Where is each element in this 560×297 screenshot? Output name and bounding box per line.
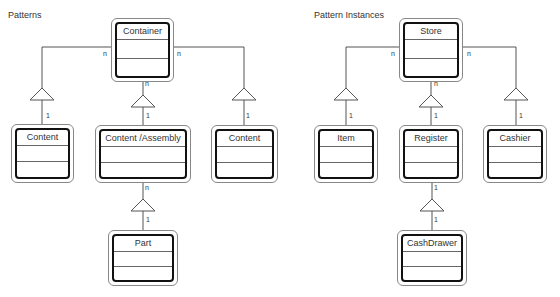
- aggregation-triangle-icon: [131, 95, 155, 107]
- association-line: [42, 47, 111, 124]
- class-box[interactable]: CashDrawer: [397, 230, 467, 286]
- class-attributes-compartment: [217, 147, 272, 163]
- multiplicity-label: 1: [519, 112, 523, 119]
- class-operations-compartment: [17, 162, 68, 177]
- multiplicity-label: n: [391, 50, 395, 57]
- class-box-frame: CashDrawer: [401, 234, 463, 282]
- multiplicity-label: 1: [246, 112, 250, 119]
- multiplicity-label: 1: [434, 184, 438, 191]
- class-name: Item: [320, 131, 372, 147]
- multiplicity-label: n: [434, 80, 438, 87]
- connector-layer: [0, 0, 560, 297]
- class-attributes-compartment: [114, 252, 172, 267]
- class-name: Store: [405, 24, 457, 40]
- class-box[interactable]: Content: [11, 124, 74, 183]
- class-box-frame: Content: [15, 128, 70, 179]
- class-name: Content: [217, 131, 272, 147]
- panel-title: Patterns: [8, 10, 42, 20]
- aggregation-triangle-icon: [419, 95, 443, 107]
- class-box[interactable]: Content /Assembly: [95, 125, 191, 183]
- class-box[interactable]: Register: [399, 125, 463, 183]
- class-name: Register: [405, 131, 457, 147]
- class-name: Content /Assembly: [101, 131, 185, 147]
- multiplicity-label: 1: [434, 216, 438, 223]
- aggregation-triangle-icon: [504, 88, 528, 100]
- class-name: Container: [117, 24, 168, 40]
- class-operations-compartment: [320, 163, 372, 178]
- class-box[interactable]: Item: [314, 125, 378, 183]
- class-box[interactable]: Store: [399, 18, 463, 82]
- class-box-frame: Content: [215, 129, 274, 179]
- class-attributes-compartment: [405, 147, 457, 163]
- class-operations-compartment: [101, 163, 185, 178]
- aggregation-triangle-icon: [131, 199, 155, 211]
- class-box-frame: Cashier: [487, 129, 543, 179]
- class-box-frame: Content /Assembly: [99, 129, 187, 179]
- class-operations-compartment: [114, 267, 172, 281]
- class-attributes-compartment: [101, 147, 185, 163]
- multiplicity-label: n: [145, 184, 149, 191]
- class-box[interactable]: Cashier: [483, 125, 547, 183]
- multiplicity-label: n: [103, 50, 107, 57]
- multiplicity-label: 1: [349, 112, 353, 119]
- class-operations-compartment: [405, 163, 457, 178]
- class-operations-compartment: [489, 163, 541, 178]
- class-attributes-compartment: [320, 147, 372, 163]
- class-operations-compartment: [405, 59, 457, 77]
- association-line: [174, 47, 244, 125]
- class-name: Part: [114, 236, 172, 252]
- class-box-frame: Part: [112, 234, 174, 282]
- aggregation-triangle-icon: [232, 88, 256, 100]
- class-name: Cashier: [489, 131, 541, 147]
- class-attributes-compartment: [117, 40, 168, 59]
- class-attributes-compartment: [489, 147, 541, 163]
- class-name: CashDrawer: [403, 236, 461, 252]
- aggregation-triangle-icon: [30, 88, 54, 100]
- class-box-frame: Store: [403, 22, 459, 78]
- aggregation-triangle-icon: [334, 88, 358, 100]
- class-box-frame: Item: [318, 129, 374, 179]
- class-operations-compartment: [403, 267, 461, 281]
- multiplicity-label: 1: [434, 112, 438, 119]
- class-attributes-compartment: [405, 40, 457, 59]
- class-box-frame: Register: [403, 129, 459, 179]
- class-box-frame: Container: [115, 22, 170, 78]
- class-attributes-compartment: [17, 146, 68, 162]
- association-line: [463, 47, 516, 125]
- class-operations-compartment: [117, 59, 168, 77]
- multiplicity-label: 1: [46, 112, 50, 119]
- multiplicity-label: n: [467, 50, 471, 57]
- multiplicity-label: 1: [146, 112, 150, 119]
- class-attributes-compartment: [403, 252, 461, 267]
- multiplicity-label: 1: [146, 216, 150, 223]
- aggregation-triangle-icon: [420, 199, 444, 211]
- multiplicity-label: n: [145, 80, 149, 87]
- class-box[interactable]: Container: [111, 18, 174, 82]
- class-box[interactable]: Part: [108, 230, 178, 286]
- class-name: Content: [17, 130, 68, 146]
- class-box[interactable]: Content: [211, 125, 278, 183]
- association-line: [346, 47, 399, 125]
- class-operations-compartment: [217, 163, 272, 178]
- panel-title: Pattern Instances: [314, 10, 384, 20]
- multiplicity-label: n: [177, 50, 181, 57]
